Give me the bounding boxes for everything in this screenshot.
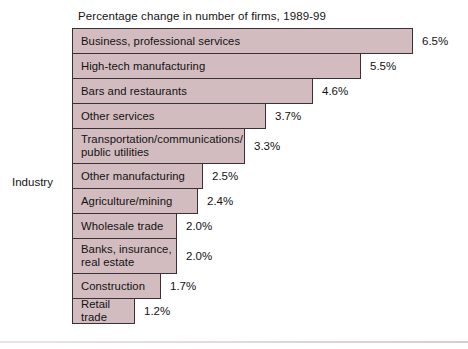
bar-row: Construction1.7% [72, 273, 462, 299]
bar-row: Other services3.7% [72, 103, 462, 129]
bar-category-label: Bars and restaurants [81, 85, 187, 98]
bar-category-label: Retail trade [81, 298, 134, 323]
bar: Bars and restaurants [72, 78, 313, 104]
bar-chart: Percentage change in number of firms, 19… [0, 0, 468, 349]
scan-artifact-line [0, 341, 468, 343]
bar: Business, professional services [72, 28, 413, 54]
bar-category-label: Transportation/communications/ public ut… [81, 133, 243, 158]
bar-category-label: Business, professional services [81, 35, 240, 48]
bar-value-label: 2.0% [186, 220, 212, 232]
bar-value-label: 2.0% [186, 250, 212, 262]
bar-category-label: Other services [81, 110, 155, 123]
bar-value-label: 2.4% [207, 195, 233, 207]
chart-title: Percentage change in number of firms, 19… [78, 10, 326, 22]
bar-row: Retail trade1.2% [72, 298, 462, 324]
bar-row: Other manufacturing2.5% [72, 163, 462, 189]
bar-value-label: 2.5% [212, 170, 238, 182]
bar: Other manufacturing [72, 163, 203, 189]
bar-row: Transportation/communications/ public ut… [72, 128, 462, 164]
bar: Wholesale trade [72, 213, 177, 239]
plot-area: Business, professional services6.5%High-… [72, 28, 462, 333]
bar-value-label: 1.7% [170, 280, 196, 292]
bar-row: Bars and restaurants4.6% [72, 78, 462, 104]
bar: Construction [72, 273, 161, 299]
bar-row: Banks, insurance, real estate2.0% [72, 238, 462, 274]
y-axis-label: Industry [12, 176, 53, 188]
bar-row: High-tech manufacturing5.5% [72, 53, 462, 79]
bar-category-label: Other manufacturing [81, 170, 185, 183]
bar-row: Wholesale trade2.0% [72, 213, 462, 239]
bar: Agriculture/mining [72, 188, 198, 214]
bar: Retail trade [72, 298, 135, 324]
bar-value-label: 3.3% [254, 140, 280, 152]
bar-value-label: 3.7% [275, 110, 301, 122]
bar-category-label: Wholesale trade [81, 220, 163, 233]
bar-value-label: 4.6% [322, 85, 348, 97]
bar: High-tech manufacturing [72, 53, 361, 79]
bar-value-label: 6.5% [422, 35, 448, 47]
bar: Banks, insurance, real estate [72, 238, 177, 274]
bar-category-label: Agriculture/mining [81, 195, 172, 208]
bar-value-label: 5.5% [370, 60, 396, 72]
bar-category-label: Banks, insurance, real estate [81, 243, 172, 268]
bar-category-label: Construction [81, 280, 145, 293]
bar: Transportation/communications/ public ut… [72, 128, 245, 164]
bar: Other services [72, 103, 266, 129]
bar-row: Business, professional services6.5% [72, 28, 462, 54]
bar-category-label: High-tech manufacturing [81, 60, 205, 73]
bar-row: Agriculture/mining2.4% [72, 188, 462, 214]
bar-value-label: 1.2% [144, 305, 170, 317]
